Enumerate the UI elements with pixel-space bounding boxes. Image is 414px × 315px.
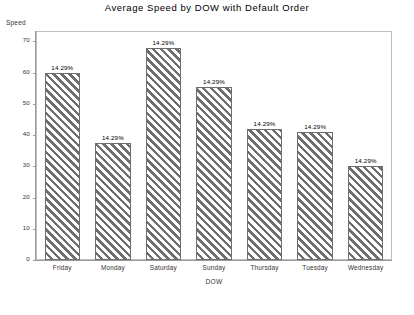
y-axis-tick-label: 60 <box>23 68 30 75</box>
bar-slot: 14.29% <box>348 32 383 260</box>
y-axis-tick-mark <box>33 135 36 136</box>
bar-value-label: 14.29% <box>81 134 144 141</box>
bar-slot: 14.29% <box>146 32 181 260</box>
plot-area: 14.29%14.29%14.29%14.29%14.29%14.29%14.2… <box>37 32 391 260</box>
y-axis-tick-mark <box>33 104 36 105</box>
y-axis-tick-mark <box>33 73 36 74</box>
x-axis-label: DOW <box>37 278 391 285</box>
bar[interactable] <box>348 166 383 260</box>
x-axis-tick-label: Wednesday <box>340 264 391 271</box>
x-axis-tick-labels: FridayMondaySaturdaySundayThursdayTuesda… <box>37 264 391 278</box>
y-axis-tick-mark <box>33 41 36 42</box>
x-axis-tick-label: Saturday <box>138 264 189 271</box>
bar-value-label: 14.29% <box>182 78 245 85</box>
bar-slot: 14.29% <box>297 32 332 260</box>
bar[interactable] <box>247 129 282 260</box>
y-axis-label: Speed <box>6 19 26 26</box>
y-axis-tick-mark <box>33 166 36 167</box>
bar[interactable] <box>95 143 130 260</box>
bar-chart: Average Speed by DOW with Default Order … <box>0 0 414 315</box>
bar[interactable] <box>196 87 231 260</box>
x-axis-tick-label: Thursday <box>239 264 290 271</box>
bar-value-label: 14.29% <box>132 39 195 46</box>
bar-slot: 14.29% <box>45 32 80 260</box>
x-axis-tick-label: Tuesday <box>290 264 341 271</box>
bar-value-label: 14.29% <box>334 157 397 164</box>
y-axis-tick-label: 30 <box>23 161 30 168</box>
x-axis-line <box>36 260 392 261</box>
bar[interactable] <box>297 132 332 260</box>
x-axis-tick-label: Friday <box>37 264 88 271</box>
y-axis-tick-label: 40 <box>23 130 30 137</box>
y-axis-tick-label: 70 <box>23 36 30 43</box>
bar[interactable] <box>146 48 181 260</box>
bar-slot: 14.29% <box>196 32 231 260</box>
y-axis-tick-mark <box>33 198 36 199</box>
x-axis-tick-label: Sunday <box>189 264 240 271</box>
x-axis-tick-label: Monday <box>88 264 139 271</box>
bar-value-label: 14.29% <box>283 123 346 130</box>
bar[interactable] <box>45 73 80 260</box>
chart-title: Average Speed by DOW with Default Order <box>0 2 414 13</box>
bar-slot: 14.29% <box>247 32 282 260</box>
y-axis-tick-mark <box>33 229 36 230</box>
bar-slot: 14.29% <box>95 32 130 260</box>
y-axis-tick-label: 0 <box>26 255 30 262</box>
y-axis-tick-label: 50 <box>23 99 30 106</box>
y-axis-tick-label: 10 <box>23 224 30 231</box>
bar-value-label: 14.29% <box>31 64 94 71</box>
y-axis-tick-label: 20 <box>23 193 30 200</box>
